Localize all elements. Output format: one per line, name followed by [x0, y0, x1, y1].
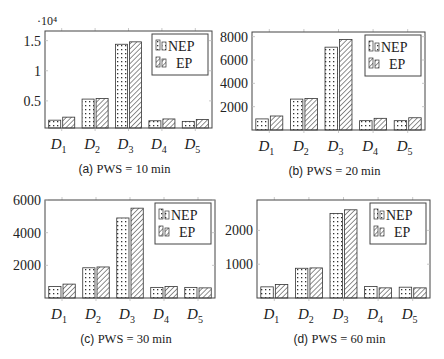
bar-ep-d2: EP D2: 2700 — [305, 99, 317, 131]
bar-ep-d1: EP D1: 1200 — [270, 116, 282, 130]
y-tick-label: 6000 — [13, 193, 41, 208]
legend-label-ep: EP — [179, 225, 196, 240]
bar-ep-d4: EP D4: 1000 — [374, 118, 386, 130]
x-category-label: D5 — [186, 306, 203, 325]
bar-ep-d3: EP D3: 5500 — [131, 208, 143, 298]
x-category-label: D5 — [396, 138, 413, 157]
legend-swatch-ep — [375, 60, 379, 68]
bar-nep-d1: NEP D1: 700 — [49, 287, 61, 298]
bar-ep-d5: EP D5: 300 — [414, 288, 426, 298]
bar-ep-d5: EP D5: 1050 — [409, 118, 421, 130]
bar-nep-d5: NEP D5: 650 — [185, 287, 197, 298]
x-category-label: D5 — [401, 306, 418, 325]
legend-swatch-nep — [159, 209, 163, 219]
y-tick-label: 1.5 — [24, 34, 42, 49]
legend: NEPEP — [365, 35, 421, 76]
legend-swatch-ep — [374, 226, 378, 236]
bar-nep-d2: NEP D2: 880 — [295, 268, 307, 298]
bar-nep-d1: NEP D1: 1800 — [49, 120, 61, 128]
subfigure-caption: (c) PWS = 30 min — [80, 332, 172, 346]
x-category-label: D2 — [297, 306, 314, 325]
bar-nep-d2: NEP D2: 5300 — [82, 99, 94, 128]
bar-nep-d5: NEP D5: 1600 — [182, 121, 194, 128]
bar-nep-d2: NEP D2: 1850 — [83, 268, 95, 298]
y-tick-label: 0.5 — [24, 94, 42, 109]
x-category-label: D4 — [150, 136, 167, 155]
bar-ep-d1: EP D1: 400 — [275, 284, 287, 298]
y-tick-label: 4000 — [13, 226, 41, 241]
legend-swatch-nep — [165, 211, 169, 219]
bar-nep-d4: NEP D4: 800 — [360, 121, 372, 130]
bar-ep-d3: EP D3: 7750 — [340, 40, 352, 130]
y-tick-label: 8000 — [220, 30, 248, 45]
bar-nep-d3: NEP D3: 7100 — [325, 47, 337, 130]
y-tick-label: 4000 — [220, 76, 248, 91]
x-category-label: D1 — [262, 306, 279, 325]
legend-label-nep: NEP — [168, 39, 195, 54]
bar-ep-d4: EP D4: 2000 — [163, 119, 175, 128]
bar-nep-d5: NEP D5: 320 — [399, 287, 411, 298]
x-category-label: D3 — [332, 306, 349, 325]
legend-label-ep: EP — [394, 225, 411, 240]
bar-ep-d5: EP D5: 1900 — [196, 120, 208, 128]
chart-panel-d: NEP D1: 330EP D1: 400NEP D2: 880EP D2: 8… — [225, 197, 430, 346]
legend: NEPEP — [155, 203, 211, 244]
bar-nep-d1: NEP D1: 950 — [256, 119, 268, 130]
subfigure-caption: (a) PWS = 10 min — [78, 162, 171, 176]
x-category-label: D3 — [327, 138, 344, 157]
subfigure-caption: (b) PWS = 20 min — [288, 164, 381, 178]
legend-label-nep: NEP — [171, 208, 198, 223]
bar-ep-d1: EP D1: 850 — [63, 284, 75, 298]
legend-label-nep: NEP — [381, 40, 408, 55]
x-category-label: D4 — [366, 306, 383, 325]
bar-nep-d2: NEP D2: 2650 — [290, 99, 302, 130]
bar-nep-d3: NEP D3: 4900 — [117, 218, 129, 298]
bar-ep-d3: EP D3: 14800 — [130, 42, 142, 128]
chart-panel-a: NEP D1: 1800EP D1: 2300NEP D2: 5300EP D2… — [24, 14, 213, 176]
x-category-label: D1 — [50, 136, 67, 155]
bar-nep-d4: NEP D4: 1700 — [149, 121, 161, 128]
y-tick-label: 2000 — [220, 100, 248, 115]
legend-swatch-ep — [165, 228, 169, 236]
x-category-label: D2 — [83, 136, 100, 155]
y-scale-label: ·10⁴ — [37, 14, 57, 28]
bar-ep-d5: EP D5: 620 — [199, 288, 211, 298]
legend-label-ep: EP — [389, 57, 406, 72]
x-category-label: D5 — [183, 136, 200, 155]
legend-label-nep: NEP — [386, 208, 413, 223]
legend-swatch-ep — [380, 228, 384, 236]
legend-swatch-ep — [162, 59, 166, 67]
y-tick-label: 2000 — [13, 258, 41, 273]
legend-swatch-ep — [369, 58, 373, 68]
y-tick-label: 1000 — [225, 257, 253, 272]
bar-nep-d3: NEP D3: 2500 — [330, 214, 342, 298]
legend-swatch-ep — [159, 226, 163, 236]
subfigure-caption: (d) PWS = 60 min — [293, 332, 386, 346]
legend: NEPEP — [152, 34, 208, 75]
legend-swatch-nep — [374, 209, 378, 219]
bar-ep-d4: EP D4: 700 — [165, 287, 177, 298]
bar-ep-d3: EP D3: 2610 — [345, 210, 357, 298]
legend-swatch-nep — [380, 211, 384, 219]
x-category-label: D2 — [84, 306, 101, 325]
x-category-label: D1 — [50, 306, 67, 325]
bar-nep-d5: NEP D5: 800 — [394, 121, 406, 130]
x-category-label: D1 — [257, 138, 274, 157]
y-tick-label: 1 — [34, 64, 41, 79]
legend-swatch-nep — [369, 41, 373, 51]
bar-ep-d2: EP D2: 890 — [310, 268, 322, 298]
chart-panel-b: NEP D1: 950EP D1: 1200NEP D2: 2650EP D2:… — [220, 29, 425, 178]
legend: NEPEP — [370, 203, 426, 244]
legend-swatch-nep — [162, 42, 166, 50]
x-category-label: D2 — [292, 138, 309, 157]
bar-nep-d4: NEP D4: 650 — [151, 287, 163, 298]
legend-label-ep: EP — [176, 56, 193, 71]
x-category-label: D4 — [361, 138, 378, 157]
y-tick-label: 2000 — [225, 223, 253, 238]
figure-canvas: NEP D1: 1800EP D1: 2300NEP D2: 5300EP D2… — [0, 0, 444, 359]
bar-nep-d3: NEP D3: 14400 — [115, 44, 127, 128]
legend-swatch-ep — [156, 57, 160, 67]
bar-ep-d2: EP D2: 1900 — [97, 267, 109, 298]
x-category-label: D3 — [117, 136, 134, 155]
x-category-label: D4 — [152, 306, 169, 325]
